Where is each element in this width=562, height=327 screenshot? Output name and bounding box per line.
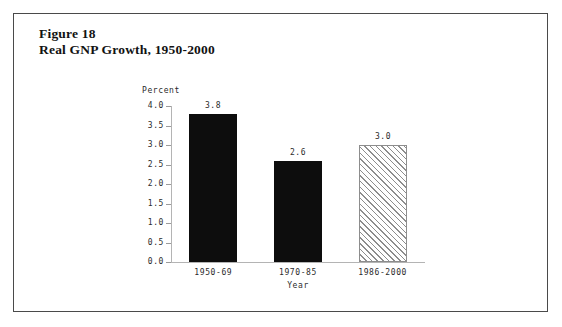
y-axis-tick-mark bbox=[166, 184, 171, 185]
y-axis-tick-mark bbox=[166, 106, 171, 107]
x-axis-title: Year bbox=[171, 281, 425, 290]
y-axis-line bbox=[171, 106, 172, 263]
y-axis-title: Percent bbox=[142, 86, 180, 95]
y-axis-tick-label: 0.5 bbox=[130, 238, 164, 248]
y-axis-tick-label: 2.0 bbox=[130, 179, 164, 189]
y-axis-tick-mark bbox=[166, 165, 171, 166]
y-axis-tick: 1.5 bbox=[130, 199, 171, 209]
bar-chart-plot: Percent 4.03.53.02.52.01.51.00.50.0 3.82… bbox=[0, 0, 562, 327]
y-axis-tick-mark bbox=[166, 223, 171, 224]
y-axis-tick-label: 1.0 bbox=[130, 218, 164, 228]
y-axis-tick-label: 3.5 bbox=[130, 121, 164, 131]
bar-1970-85 bbox=[274, 161, 322, 262]
y-axis-tick: 4.0 bbox=[130, 101, 171, 111]
bar-1986-2000 bbox=[359, 145, 407, 262]
y-axis-tick-mark bbox=[166, 243, 171, 244]
y-axis-tick: 2.5 bbox=[130, 160, 171, 170]
y-axis-tick-mark bbox=[166, 126, 171, 127]
y-axis-tick-label: 1.5 bbox=[130, 199, 164, 209]
y-axis-tick-label: 0.0 bbox=[130, 257, 164, 267]
x-axis-category-label: 1986-2000 bbox=[340, 268, 425, 277]
y-axis-tick: 0.0 bbox=[130, 257, 171, 267]
y-axis-tick-label: 2.5 bbox=[130, 160, 164, 170]
y-axis-tick-label: 3.0 bbox=[130, 140, 164, 150]
y-axis-tick-mark bbox=[166, 204, 171, 205]
y-axis-tick: 2.0 bbox=[130, 179, 171, 189]
bar-value-label: 2.6 bbox=[262, 148, 334, 157]
y-axis-tick: 3.5 bbox=[130, 121, 171, 131]
bar-value-label: 3.8 bbox=[177, 101, 249, 110]
y-axis-tick-label: 4.0 bbox=[130, 101, 164, 111]
x-axis-category-label: 1950-69 bbox=[171, 268, 256, 277]
bar-value-label: 3.0 bbox=[347, 132, 419, 141]
y-axis-tick: 0.5 bbox=[130, 238, 171, 248]
y-axis-tick: 3.0 bbox=[130, 140, 171, 150]
x-axis-line bbox=[171, 262, 425, 263]
figure-root: Figure 18 Real GNP Growth, 1950-2000 Per… bbox=[0, 0, 562, 327]
bar-1950-69 bbox=[189, 114, 237, 262]
y-axis-tick: 1.0 bbox=[130, 218, 171, 228]
y-axis-tick-mark bbox=[166, 262, 171, 263]
x-axis-category-label: 1970-85 bbox=[256, 268, 341, 277]
y-axis-tick-mark bbox=[166, 145, 171, 146]
